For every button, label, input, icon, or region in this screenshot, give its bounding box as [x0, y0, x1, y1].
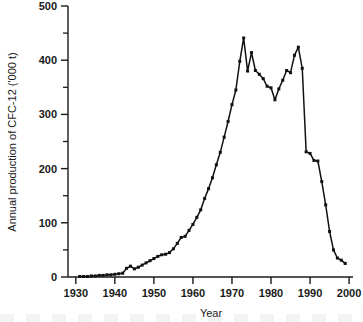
data-point — [203, 197, 206, 200]
data-point — [277, 87, 280, 90]
x-tick-label-1940: 1940 — [103, 287, 127, 299]
data-point — [344, 262, 347, 265]
data-point — [328, 230, 331, 233]
data-point — [207, 187, 210, 190]
data-point — [254, 69, 257, 72]
y-tick-label-0: 0 — [51, 271, 57, 283]
data-point — [246, 70, 249, 73]
data-point — [305, 150, 308, 153]
data-point — [258, 73, 261, 76]
data-point — [125, 267, 128, 270]
data-point — [145, 261, 148, 264]
data-point — [324, 203, 327, 206]
y-tick-label-100: 100 — [39, 217, 57, 229]
data-point — [184, 235, 187, 238]
data-point — [297, 46, 300, 49]
y-tick-label-400: 400 — [39, 54, 57, 66]
data-point — [309, 152, 312, 155]
data-point — [227, 120, 230, 123]
x-tick-label-1990: 1990 — [298, 287, 322, 299]
y-axis-title: Annual production of CFC-12 ('000 t) — [6, 52, 18, 231]
y-tick-label-200: 200 — [39, 163, 57, 175]
data-point — [301, 67, 304, 70]
data-point — [211, 176, 214, 179]
x-tick-label-1930: 1930 — [64, 287, 88, 299]
data-point — [113, 273, 116, 276]
data-point — [141, 264, 144, 267]
data-point — [336, 257, 339, 260]
y-axis-tick-labels: 0100200300400500 — [39, 0, 57, 283]
x-tick-label-1970: 1970 — [220, 287, 244, 299]
x-tick-label-1950: 1950 — [142, 287, 166, 299]
data-point — [106, 273, 109, 276]
data-point — [219, 151, 222, 154]
y-axis-minor-ticks — [63, 33, 68, 250]
data-point — [270, 86, 273, 89]
data-point — [156, 255, 159, 258]
data-point — [168, 251, 171, 254]
data-point — [215, 163, 218, 166]
data-point — [152, 257, 155, 260]
data-point — [129, 265, 132, 268]
data-point — [273, 98, 276, 101]
data-point — [117, 272, 120, 275]
data-point — [234, 89, 237, 92]
x-tick-label-1960: 1960 — [181, 287, 205, 299]
data-point — [332, 248, 335, 251]
data-point — [121, 272, 124, 275]
data-point — [78, 275, 81, 278]
data-point — [195, 216, 198, 219]
data-series-markers — [78, 36, 346, 277]
data-point — [180, 236, 183, 239]
data-point — [266, 85, 269, 88]
x-axis-tick-labels: 19301940195019601970198019902000 — [64, 287, 362, 299]
data-point — [188, 229, 191, 232]
data-point — [176, 242, 179, 245]
data-point — [250, 51, 253, 54]
data-point — [285, 69, 288, 72]
x-tick-label-1980: 1980 — [259, 287, 283, 299]
data-series-line — [80, 38, 345, 276]
data-point — [160, 253, 163, 256]
data-point — [133, 267, 136, 270]
data-point — [164, 253, 167, 256]
data-point — [223, 136, 226, 139]
data-point — [320, 180, 323, 183]
data-point — [109, 273, 112, 276]
data-point — [340, 259, 343, 262]
data-point — [199, 208, 202, 211]
x-axis-major-ticks — [76, 277, 349, 284]
data-point — [98, 274, 101, 277]
data-point — [102, 274, 105, 277]
data-point — [281, 79, 284, 82]
data-point — [312, 159, 315, 162]
data-point — [191, 223, 194, 226]
data-point — [316, 160, 319, 163]
cfc12-production-line-chart: 0100200300400500 19301940195019601970198… — [0, 0, 363, 322]
data-point — [90, 274, 93, 277]
y-tick-label-300: 300 — [39, 108, 57, 120]
data-point — [230, 103, 233, 106]
chart-figure: 0100200300400500 19301940195019601970198… — [0, 0, 363, 322]
clipped-caption-smudge — [0, 314, 363, 322]
data-point — [86, 275, 89, 278]
data-point — [137, 266, 140, 269]
data-point — [172, 247, 175, 250]
data-point — [262, 77, 265, 80]
x-tick-label-2000: 2000 — [337, 287, 361, 299]
data-point — [289, 71, 292, 74]
data-point — [94, 274, 97, 277]
data-point — [242, 36, 245, 39]
y-tick-label-500: 500 — [39, 0, 57, 12]
data-point — [82, 275, 85, 278]
data-point — [293, 54, 296, 57]
data-point — [148, 259, 151, 262]
data-point — [238, 60, 241, 63]
